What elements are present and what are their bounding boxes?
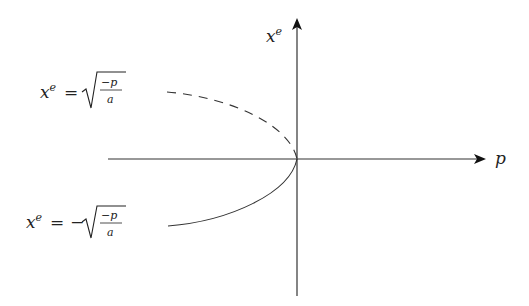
svg-text:a: a [107, 226, 114, 239]
svg-text:=: = [50, 212, 64, 232]
svg-text:−p: −p [101, 76, 117, 89]
bifurcation-diagram: xe p xe = −p a xe = − −p a [0, 0, 529, 306]
svg-text:−p: −p [101, 209, 117, 222]
upper-equation: xe = −p a [40, 72, 126, 108]
vertical-axis-label: xe [266, 25, 283, 46]
upper-branch-dashed [167, 92, 297, 159]
svg-text:xe: xe [26, 211, 43, 232]
svg-text:a: a [107, 93, 114, 106]
lower-branch-solid [168, 159, 297, 226]
svg-text:=: = [64, 82, 78, 102]
horizontal-axis-label: p [495, 148, 506, 168]
lower-equation: xe = − −p a [26, 206, 126, 239]
svg-text:xe: xe [40, 81, 57, 102]
diagram-svg: xe p xe = −p a xe = − −p a [0, 0, 529, 306]
